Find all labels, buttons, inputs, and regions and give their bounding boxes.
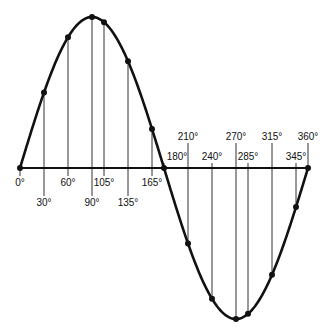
degree-label-165: 165° <box>142 177 163 188</box>
degree-label-315: 315° <box>262 131 283 142</box>
degree-label-180: 180° <box>167 151 188 162</box>
degree-labels: 0°30°60°90°105°135°165°180°210°240°270°2… <box>15 131 318 208</box>
degree-label-285: 285° <box>238 151 259 162</box>
degree-label-105: 105° <box>94 177 115 188</box>
point-marker-210 <box>185 241 191 247</box>
point-marker-60 <box>65 34 71 40</box>
point-marker-285 <box>245 311 251 317</box>
point-marker-240 <box>209 296 215 302</box>
point-marker-270 <box>233 316 239 322</box>
degree-label-270: 270° <box>226 131 247 142</box>
degree-label-90: 90° <box>84 197 99 208</box>
point-marker-345 <box>293 204 299 210</box>
point-marker-360 <box>305 165 311 171</box>
sine-wave-diagram: 0°30°60°90°105°135°165°180°210°240°270°2… <box>0 0 331 334</box>
point-marker-165 <box>149 126 155 132</box>
degree-label-345: 345° <box>286 151 307 162</box>
point-marker-0 <box>17 165 23 171</box>
degree-label-0: 0° <box>15 177 25 188</box>
point-marker-315 <box>269 272 275 278</box>
point-marker-90 <box>89 14 95 20</box>
degree-label-60: 60° <box>60 177 75 188</box>
point-marker-180 <box>161 165 167 171</box>
point-marker-135 <box>125 58 131 64</box>
point-marker-105 <box>101 19 107 25</box>
degree-label-30: 30° <box>36 197 51 208</box>
degree-label-240: 240° <box>202 151 223 162</box>
point-marker-30 <box>41 90 47 96</box>
degree-label-360: 360° <box>298 131 319 142</box>
degree-label-210: 210° <box>178 131 199 142</box>
degree-label-135: 135° <box>118 197 139 208</box>
